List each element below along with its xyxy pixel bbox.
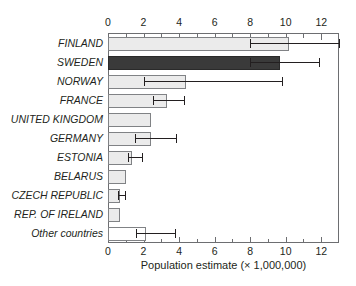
x-tick-label-top-12: 12 [306,16,336,28]
chart-row: NORWAY [0,72,356,91]
x-tick-label-top-8: 8 [235,16,265,28]
x-tick-label-bot-2: 2 [129,245,159,257]
error-bar [135,138,177,139]
x-axis-title: Population estimate (× 1,000,000) [108,259,339,271]
category-label-finland: FINLAND [0,34,103,53]
category-label-rep-of-ireland: REP. OF IRELAND [0,205,103,224]
chart-row: SWEDEN [0,53,356,72]
bar [108,208,120,222]
error-bar-cap-high [184,96,185,105]
error-bar [144,81,283,82]
x-tick-label-top-4: 4 [164,16,194,28]
x-tick-label-bot-0: 0 [93,245,123,257]
chart-row: FINLAND [0,34,356,53]
category-label-belarus: BELARUS [0,167,103,186]
x-tick-label-bot-4: 4 [164,245,194,257]
category-label-other-countries: Other countries [0,224,103,243]
x-tick-label-top-6: 6 [200,16,230,28]
category-label-united-kingdom: UNITED KINGDOM [0,110,103,129]
error-bar [136,233,174,234]
category-label-germany: GERMANY [0,129,103,148]
error-bar [118,195,125,196]
chart-row: REP. OF IRELAND [0,205,356,224]
chart-row: CZECH REPUBLIC [0,186,356,205]
error-bar-cap-low [250,58,251,67]
chart-row: ESTONIA [0,148,356,167]
error-bar-cap-high [142,153,143,162]
category-label-estonia: ESTONIA [0,148,103,167]
category-label-sweden: SWEDEN [0,53,103,72]
chart-row: UNITED KINGDOM [0,110,356,129]
error-bar [250,62,319,63]
bar [108,113,151,127]
chart-row: FRANCE [0,91,356,110]
error-bar-cap-low [136,229,137,238]
error-bar-cap-low [144,77,145,86]
error-bar-cap-high [319,58,320,67]
category-label-czech-republic: CZECH REPUBLIC [0,186,103,205]
x-tick-label-top-10: 10 [271,16,301,28]
bar-chart: 002244668810101212 FINLANDSWEDENNORWAYFR… [0,0,356,286]
error-bar-cap-low [250,39,251,48]
error-bar-cap-low [135,134,136,143]
error-bar-cap-low [153,96,154,105]
x-tick-label-bot-6: 6 [200,245,230,257]
category-label-france: FRANCE [0,91,103,110]
error-bar-cap-high [282,77,283,86]
x-tick-label-bot-10: 10 [271,245,301,257]
x-tick-label-bot-8: 8 [235,245,265,257]
category-label-norway: NORWAY [0,72,103,91]
error-bar-cap-high [176,134,177,143]
chart-row: Other countries [0,224,356,243]
error-bar-cap-high [339,39,340,48]
error-bar [153,100,184,101]
bar [108,170,126,184]
error-bar-cap-high [175,229,176,238]
x-tick-label-top-2: 2 [129,16,159,28]
error-bar-cap-low [118,191,119,200]
chart-row: GERMANY [0,129,356,148]
chart-row: BELARUS [0,167,356,186]
x-tick-label-top-0: 0 [93,16,123,28]
error-bar-cap-low [128,153,129,162]
error-bar [128,157,142,158]
error-bar-cap-high [125,191,126,200]
error-bar [250,43,339,44]
x-tick-label-bot-12: 12 [306,245,336,257]
